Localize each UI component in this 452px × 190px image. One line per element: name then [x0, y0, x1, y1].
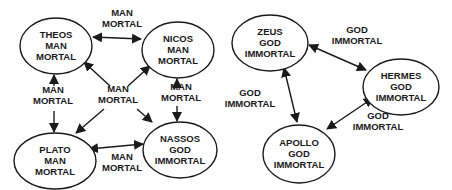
edge-label-line2: MORTAL	[102, 18, 142, 29]
edge-center-plato	[76, 109, 104, 133]
node-hermes-line2: GOD	[390, 81, 412, 92]
edge-label-line1: MAN	[107, 83, 129, 94]
edge-label-line2: MORTAL	[98, 94, 138, 105]
edge-center-theos	[84, 62, 110, 86]
relationship-diagram: THEOS MAN MORTAL NICOS MAN MORTAL PLATO …	[0, 0, 452, 190]
edge-label-nicos-nassos: MAN MORTAL	[161, 81, 201, 103]
edge-label-line1: MAN	[170, 81, 192, 92]
node-nicos-line2: MAN	[167, 44, 189, 55]
node-nassos-line2: GOD	[169, 144, 191, 155]
node-nassos-line1: NASSOS	[160, 133, 200, 144]
edge-label-line2: MORTAL	[33, 95, 73, 106]
edge-label-line2: MORTAL	[161, 92, 201, 103]
node-plato-line3: MORTAL	[35, 166, 75, 177]
node-nicos: NICOS MAN MORTAL	[142, 22, 214, 78]
node-hermes-line3: IMMORTAL	[376, 92, 427, 103]
node-apollo: APOLLO GOD IMMORTAL	[263, 125, 335, 183]
edge-label-line1: MAN	[42, 84, 64, 95]
edge-plato-nassos	[89, 144, 143, 149]
edge-label-zeus-hermes: GOD IMMORTAL	[332, 24, 383, 46]
edge-label-line1: MAN	[111, 7, 133, 18]
edge-center-nicos	[128, 66, 150, 86]
node-nassos: NASSOS GOD IMMORTAL	[143, 122, 217, 178]
node-zeus-line2: GOD	[259, 37, 281, 48]
edge-zeus-apollo	[284, 68, 297, 122]
edge-label-line1: MAN	[111, 151, 133, 162]
node-theos-line1: THEOS	[40, 29, 73, 40]
edge-label-theos-nicos: MAN MORTAL	[102, 7, 142, 29]
node-plato-line1: PLATO	[39, 144, 70, 155]
node-apollo-line3: IMMORTAL	[274, 159, 325, 170]
node-zeus: ZEUS GOD IMMORTAL	[232, 15, 308, 71]
node-theos-line3: MORTAL	[36, 51, 76, 62]
node-theos-line2: MAN	[45, 40, 67, 51]
edge-label-center: MAN MORTAL	[98, 83, 138, 105]
edge-label-line1: GOD	[346, 24, 368, 35]
edge-label-zeus-apollo: GOD IMMORTAL	[225, 87, 276, 109]
edge-label-line2: IMMORTAL	[353, 121, 404, 132]
node-zeus-line3: IMMORTAL	[245, 48, 296, 59]
node-nicos-line3: MORTAL	[158, 55, 198, 66]
edge-label-line2: IMMORTAL	[225, 98, 276, 109]
node-plato-line2: MAN	[44, 155, 66, 166]
node-theos: THEOS MAN MORTAL	[20, 18, 92, 74]
edge-label-line1: GOD	[367, 110, 389, 121]
edge-label-plato-nassos: MAN MORTAL	[102, 151, 142, 173]
edge-label-line2: MORTAL	[102, 162, 142, 173]
node-apollo-line1: APOLLO	[279, 137, 319, 148]
edge-center-nassos	[137, 109, 152, 122]
edge-label-theos-plato: MAN MORTAL	[33, 84, 73, 106]
node-hermes-line1: HERMES	[381, 70, 422, 81]
node-nicos-line1: NICOS	[163, 33, 193, 44]
edge-label-line1: GOD	[239, 87, 261, 98]
node-zeus-line1: ZEUS	[257, 26, 282, 37]
node-hermes: HERMES GOD IMMORTAL	[363, 59, 439, 115]
node-nassos-line3: IMMORTAL	[155, 155, 206, 166]
edge-label-line2: IMMORTAL	[332, 35, 383, 46]
node-apollo-line2: GOD	[288, 148, 310, 159]
node-plato: PLATO MAN MORTAL	[14, 133, 96, 189]
edge-theos-nicos	[93, 37, 141, 39]
edge-zeus-hermes	[309, 45, 366, 70]
